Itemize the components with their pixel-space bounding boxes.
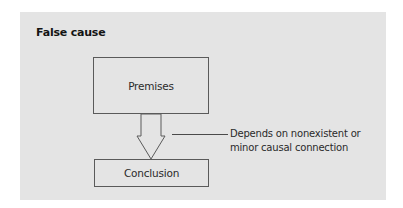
conclusion-box: Conclusion (94, 159, 209, 187)
premises-box: Premises (93, 57, 209, 114)
annotation-text: Depends on nonexistent or minor causal c… (230, 127, 360, 155)
conclusion-label: Conclusion (124, 167, 179, 179)
annotation-line-1: Depends on nonexistent or (230, 127, 360, 141)
premises-label: Premises (128, 80, 174, 92)
diagram-title: False cause (36, 26, 105, 39)
annotation-line-2: minor causal connection (230, 141, 360, 155)
